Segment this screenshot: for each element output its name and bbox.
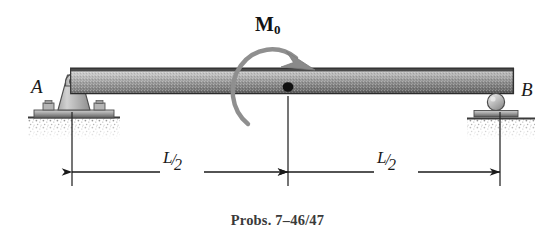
bolt-right (94, 101, 105, 111)
moment-symbol: M (255, 13, 274, 35)
roller-circle (487, 93, 504, 110)
beam-diagram-figure: A B M0 L/2 L/2 Probs. 7–46/47 (0, 0, 555, 242)
roller-support-b (474, 93, 518, 117)
roller-base-plate (474, 111, 518, 118)
support-label-b: B (521, 79, 533, 101)
ground-hatching-left (28, 118, 120, 141)
bolt-left (43, 101, 54, 111)
support-label-a: A (31, 76, 43, 98)
beam-midpoint-dot (283, 82, 294, 92)
dimension-label-left: L/2 (163, 151, 184, 171)
moment-subscript: 0 (274, 22, 281, 37)
ground-hatching-right (467, 119, 535, 141)
moment-label: M0 (255, 13, 280, 36)
dim-left-denominator: 2 (174, 156, 182, 173)
figure-caption: Probs. 7–46/47 (0, 212, 555, 229)
dim-right-denominator: 2 (388, 156, 396, 173)
dimension-label-right: L/2 (377, 151, 398, 171)
